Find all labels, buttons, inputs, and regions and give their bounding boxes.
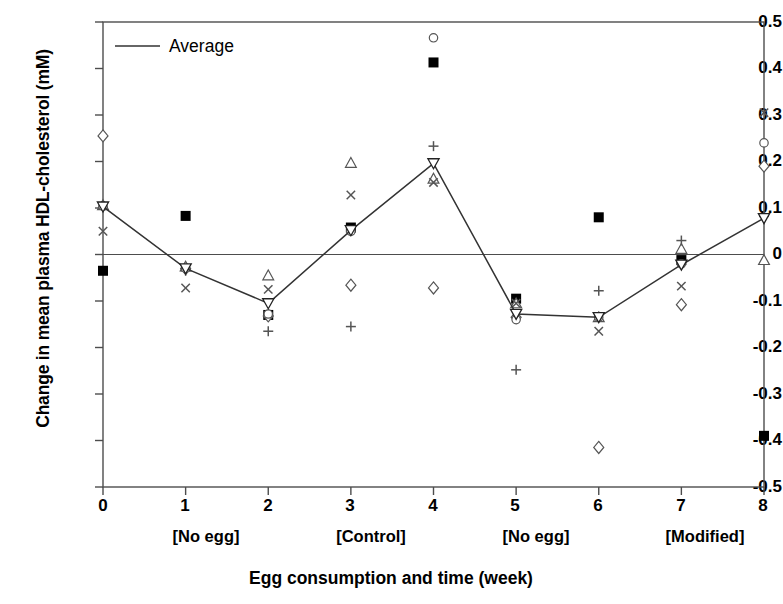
data-point-open-diamond xyxy=(594,441,604,453)
data-point-open-diamond xyxy=(346,279,356,291)
data-point-open-triangle xyxy=(759,255,770,265)
data-point-average xyxy=(263,299,274,309)
data-point-filled-square xyxy=(594,212,604,222)
data-point-open-triangle xyxy=(345,157,356,167)
data-point-filled-square xyxy=(429,57,439,67)
data-point-open-diamond xyxy=(429,282,439,294)
data-point-open-circle xyxy=(429,34,437,42)
data-point-open-diamond xyxy=(98,130,108,142)
data-point-open-circle xyxy=(760,139,768,147)
data-point-open-diamond xyxy=(759,160,769,172)
data-point-filled-square xyxy=(98,266,108,276)
data-point-filled-square xyxy=(181,211,191,221)
data-point-average xyxy=(758,214,769,224)
data-point-open-circle xyxy=(264,310,272,318)
data-point-filled-square xyxy=(759,431,769,441)
data-point-open-diamond xyxy=(676,299,686,311)
data-point-open-triangle xyxy=(263,270,274,280)
